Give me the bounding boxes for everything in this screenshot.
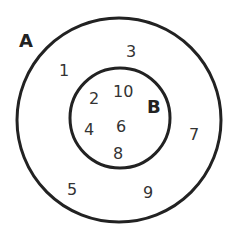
element-1: 1: [59, 61, 69, 80]
element-9: 9: [143, 183, 153, 202]
element-5: 5: [67, 180, 77, 199]
element-3: 3: [126, 42, 136, 61]
element-8: 8: [113, 144, 123, 163]
element-6: 6: [116, 117, 126, 136]
set-a-label: A: [19, 30, 33, 51]
venn-diagram: A B 1 3 7 5 9 2 10 4 6 8: [0, 0, 234, 234]
element-4: 4: [84, 120, 94, 139]
set-b-label: B: [147, 96, 161, 117]
element-7: 7: [189, 125, 199, 144]
element-2: 2: [89, 89, 99, 108]
element-10: 10: [113, 82, 133, 101]
